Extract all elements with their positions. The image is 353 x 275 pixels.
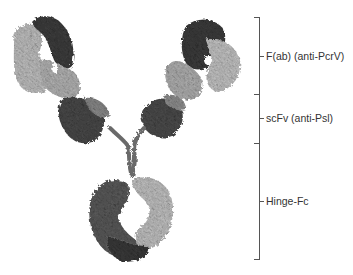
bracket-divider-1	[254, 94, 260, 95]
hinge-linkers	[110, 128, 144, 176]
left-fab-arm	[13, 16, 80, 98]
label-tick-fab	[260, 56, 264, 57]
fc-region	[89, 177, 173, 262]
bracket-bottom-cap	[254, 259, 260, 260]
label-tick-hinge	[260, 201, 264, 202]
label-tick-scfv	[260, 118, 264, 119]
left-scfv	[58, 97, 110, 143]
right-scfv	[141, 95, 186, 138]
bracket-top-cap	[254, 17, 260, 18]
label-scfv: scFv (anti-Psl)	[266, 112, 333, 124]
bracket-divider-2	[254, 143, 260, 144]
label-fab: F(ab) (anti-PcrV)	[266, 50, 344, 62]
antibody-structure-figure: F(ab) (anti-PcrV) scFv (anti-Psl) Hinge-…	[0, 0, 353, 275]
protein-surface-rendering	[0, 0, 255, 275]
right-fab-arm	[165, 20, 240, 100]
bracket-line	[259, 17, 260, 260]
label-hinge-fc: Hinge-Fc	[266, 195, 309, 207]
